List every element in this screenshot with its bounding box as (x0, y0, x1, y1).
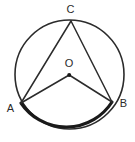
vertex-label-b: B (120, 97, 127, 109)
chord-c-to-a (21, 21, 71, 103)
radius-o-to-a (21, 75, 69, 103)
vertex-label-a: A (7, 102, 15, 114)
vertex-label-c: C (67, 3, 75, 15)
bold-arc-a-to-b (21, 102, 112, 127)
geometry-canvas: C O A B (0, 0, 135, 142)
vertex-label-o: O (65, 57, 74, 69)
geometry-figure: C O A B (0, 0, 135, 142)
center-point-dot (67, 73, 71, 77)
